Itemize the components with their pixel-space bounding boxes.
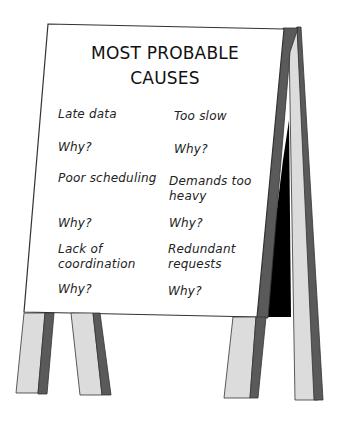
why-prompt: Why? [168,284,202,299]
why-prompt: Why? [58,140,92,155]
cause-poor-scheduling: Poor scheduling [58,171,157,186]
right-leg-front-lower [224,317,266,398]
cause-late-data: Late data [58,107,117,122]
rear-right-leg [289,27,323,400]
left-leg-1 [16,313,54,394]
cause-lack-of-coordination-line-2: coordination [58,257,136,272]
left-leg-2 [71,313,111,395]
cause-demands-too-heavy-line-2: heavy [169,189,207,204]
why-prompt: Why? [174,142,208,157]
sign-title-line-2: CAUSES [60,67,270,90]
why-prompt: Why? [169,216,203,231]
why-prompt: Why? [58,282,92,297]
easel-sign-illustration: MOST PROBABLE CAUSES Late data Why? Poor… [0,0,339,422]
sign-title-line-1: MOST PROBABLE [60,42,270,65]
why-prompt: Why? [58,216,92,231]
cause-redundant-requests-line-1: Redundant [168,242,236,257]
cause-lack-of-coordination-line-1: Lack of [58,242,102,257]
cause-too-slow: Too slow [174,109,227,124]
cause-demands-too-heavy-line-1: Demands too [169,174,252,189]
cause-redundant-requests-line-2: requests [168,257,222,272]
